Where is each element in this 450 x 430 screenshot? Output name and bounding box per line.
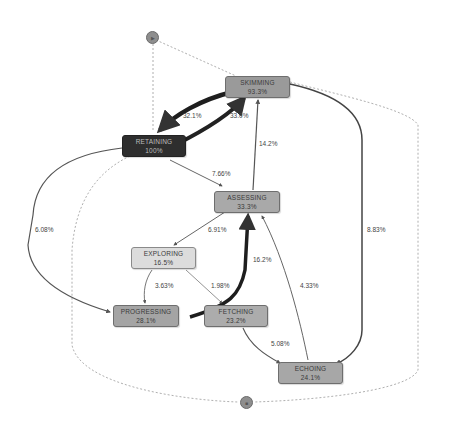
node-skimming[interactable]: SKIMMING 93.3% — [225, 76, 290, 98]
node-label: EXPLORING — [144, 249, 184, 258]
node-echoing[interactable]: ECHOING 24.1% — [278, 362, 343, 384]
edge-label-retaining-assessing: 7.66% — [212, 170, 230, 177]
start-node[interactable]: ▶ — [146, 31, 159, 44]
edge-label-skimming-echoing: 8.83% — [367, 226, 385, 233]
node-label: ASSESSING — [227, 193, 266, 202]
node-retaining[interactable]: RETAINING 100% — [122, 135, 186, 157]
edge-exploring-progressing[interactable] — [144, 270, 152, 303]
edge-label-assessing-skimming: 14.2% — [259, 140, 277, 147]
node-progressing[interactable]: PROGRESSING 28.1% — [113, 305, 179, 327]
node-value: 23.2% — [226, 316, 245, 325]
node-assessing[interactable]: ASSESSING 33.3% — [214, 191, 280, 213]
process-graph-canvas — [0, 0, 450, 430]
edge-label-fetching-echoing: 5.08% — [271, 340, 289, 347]
edge-skimming-end[interactable] — [254, 82, 418, 402]
node-value: 93.3% — [248, 87, 267, 96]
edge-skimming-retaining[interactable] — [160, 92, 232, 130]
node-value: 100% — [145, 146, 162, 155]
node-fetching[interactable]: FETCHING 23.2% — [204, 305, 268, 327]
edge-label-assessing-exploring: 6.91% — [208, 226, 226, 233]
node-label: PROGRESSING — [121, 307, 172, 316]
node-label: FETCHING — [219, 307, 254, 316]
edge-start-skimming[interactable] — [156, 40, 236, 76]
edge-label-skimming-retaining: 32.1% — [183, 112, 201, 119]
node-value: 24.1% — [301, 373, 320, 382]
node-label: SKIMMING — [240, 78, 274, 87]
edge-label-retaining-skimming: 33.0% — [230, 112, 248, 119]
edge-label-echoing-assessing: 4.33% — [300, 282, 318, 289]
end-node[interactable]: ■ — [240, 396, 253, 409]
node-exploring[interactable]: EXPLORING 16.5% — [131, 247, 196, 269]
node-value: 33.3% — [237, 202, 256, 211]
edge-label-progressing-assessing: 16.2% — [253, 256, 271, 263]
edge-label-exploring-fetching: 1.98% — [211, 282, 229, 289]
node-label: ECHOING — [295, 364, 327, 373]
edge-label-retaining-progressing: 6.08% — [35, 226, 53, 233]
node-label: RETAINING — [136, 137, 173, 146]
edge-skimming-echoing[interactable] — [290, 84, 362, 364]
edge-label-exploring-progressing: 3.63% — [155, 282, 173, 289]
play-icon: ▶ — [151, 35, 155, 41]
edge-assessing-skimming[interactable] — [253, 100, 258, 190]
node-value: 28.1% — [136, 316, 155, 325]
stop-icon: ■ — [245, 400, 248, 406]
node-value: 16.5% — [154, 258, 173, 267]
